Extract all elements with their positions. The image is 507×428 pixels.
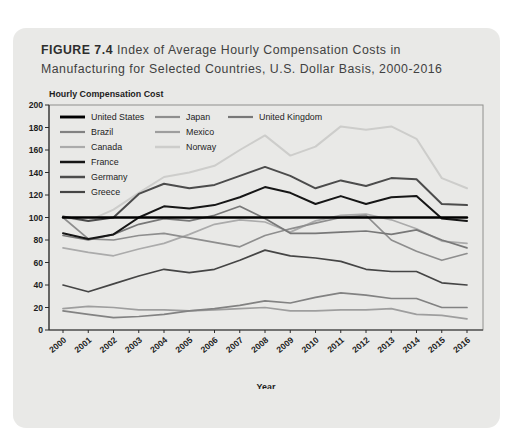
figure-card: FIGURE 7.4 Index of Average Hourly Compe… <box>13 28 500 428</box>
figure-title-line2: Manufacturing for Selected Countries, U.… <box>41 60 493 79</box>
figure-title-line1-text: Index of Average Hourly Compensation Cos… <box>113 43 401 57</box>
figure-number-label: FIGURE 7.4 <box>41 43 113 57</box>
figure-title: FIGURE 7.4 Index of Average Hourly Compe… <box>41 41 493 79</box>
figure-title-line1: FIGURE 7.4 Index of Average Hourly Compe… <box>41 41 493 60</box>
